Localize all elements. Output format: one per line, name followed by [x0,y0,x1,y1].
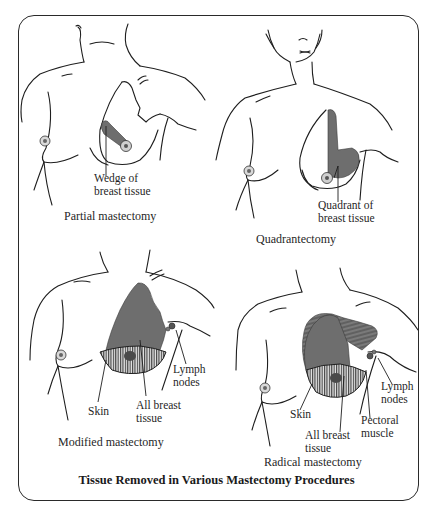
label-skin-modified: Skin [88,405,109,418]
label-quadrant-of-breast-tissue: Quadrant of breast tissue [318,199,375,225]
label-line: tissue [136,412,181,425]
caption-radical-mastectomy: Radical mastectomy [264,455,362,470]
label-wedge-of-breast-tissue: Wedge of breast tissue [94,172,151,198]
label-line: breast tissue [94,185,151,198]
label-line: Pectoral [361,414,399,427]
label-line: All breast [305,429,350,442]
label-lymph-nodes-radical: Lymph nodes [381,380,414,406]
label-line: All breast [136,399,181,412]
caption-modified-mastectomy: Modified mastectomy [58,435,164,450]
label-line: muscle [361,427,399,440]
label-line: Skin [290,408,311,421]
label-line: Skin [88,405,109,418]
label-line: Quadrant of [318,199,375,212]
wedge-removed-partial [40,121,132,176]
quadrant-removed [244,110,359,202]
label-line: nodes [381,393,414,406]
torso-quadrantectomy [216,30,398,218]
label-pectoral-muscle: Pectoral muscle [361,414,399,440]
label-line: Lymph [173,363,206,376]
label-line: tissue [305,442,350,455]
label-all-breast-tissue-radical: All breast tissue [305,429,350,455]
label-line: Wedge of [94,172,151,185]
label-all-breast-tissue-modified: All breast tissue [136,399,181,425]
caption-quadrantectomy: Quadrantectomy [256,232,336,247]
figure-title: Tissue Removed in Various Mastectomy Pro… [0,473,433,488]
breast-tissue-removed-modified [56,283,186,402]
caption-partial-mastectomy: Partial mastectomy [64,209,156,224]
label-line: nodes [173,376,206,389]
label-lymph-nodes-modified: Lymph nodes [173,363,206,389]
label-skin-radical: Skin [290,408,311,421]
label-line: Lymph [381,380,414,393]
label-line: breast tissue [318,212,375,225]
